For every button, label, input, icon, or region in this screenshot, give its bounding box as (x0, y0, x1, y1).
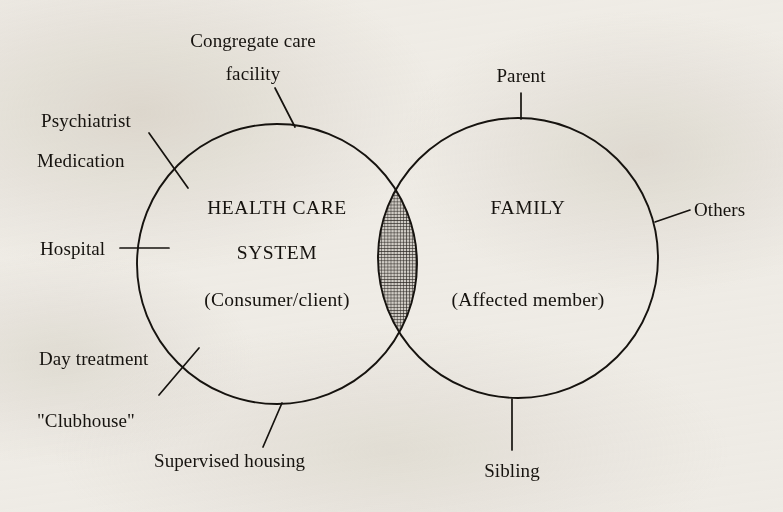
label-sibling: Sibling (484, 461, 540, 480)
venn-diagram-page: HEALTH CARE SYSTEM (Consumer/client) FAM… (0, 0, 783, 512)
label-psychiatrist: Psychiatrist (41, 111, 131, 130)
label-medication: Medication (37, 151, 125, 170)
label-congregate-care-line1: Congregate care (190, 31, 315, 50)
label-supervised-housing: Supervised housing (154, 451, 305, 470)
circle-health-care-system (137, 124, 417, 404)
venn-diagram-canvas (0, 0, 783, 512)
right-circle-heading-line1: FAMILY (491, 198, 566, 218)
leader-others (655, 210, 690, 222)
left-circle-heading-line1: HEALTH CARE (207, 198, 347, 218)
label-day-treatment: Day treatment (39, 349, 148, 368)
leader-congregate-care (275, 88, 295, 127)
intersection-region (137, 124, 417, 404)
right-circle-subtitle: (Affected member) (451, 290, 604, 310)
label-congregate-care-line2: facility (226, 64, 281, 83)
circle-family (378, 118, 658, 398)
label-parent: Parent (496, 66, 545, 85)
label-others: Others (694, 200, 745, 219)
label-hospital: Hospital (40, 239, 105, 258)
left-circle-heading-line2: SYSTEM (237, 243, 318, 263)
leader-day-treatment (159, 348, 199, 395)
label-clubhouse: "Clubhouse" (37, 411, 135, 430)
left-circle-subtitle: (Consumer/client) (204, 290, 349, 310)
leader-supervised-housing (263, 403, 282, 447)
